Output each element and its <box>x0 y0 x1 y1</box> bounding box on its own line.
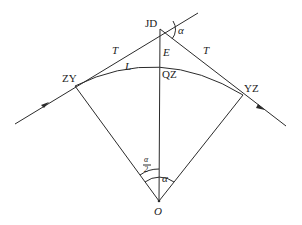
deflection-angle-arc <box>172 21 176 39</box>
central-angle-label: α <box>162 172 168 184</box>
zy-label: ZY <box>62 72 77 84</box>
tangent-label-left: T <box>112 44 119 56</box>
external-distance-label: E <box>162 46 170 58</box>
bisector-line <box>159 29 160 201</box>
circular-curve-arc <box>75 67 243 95</box>
outgoing-tangent-line <box>160 29 286 126</box>
jd-label: JD <box>145 17 157 29</box>
yz-label: YZ <box>244 82 259 94</box>
radius-line-zy <box>75 86 159 201</box>
o-label: O <box>154 205 162 217</box>
curve-length-label: L <box>124 60 131 72</box>
direction-arrow-icon <box>256 104 265 110</box>
curve-diagram: JD ZY YZ QZ O T T E L α α α 2 <box>0 0 302 225</box>
deflection-angle-label: α <box>178 24 184 36</box>
center-point <box>158 200 161 203</box>
half-angle-arc <box>140 169 159 175</box>
tangent-label-right: T <box>203 44 210 56</box>
half-angle-denominator: 2 <box>144 165 148 174</box>
half-angle-numerator: α <box>144 155 149 164</box>
qz-label: QZ <box>162 68 177 80</box>
radius-line-yz <box>159 95 243 201</box>
